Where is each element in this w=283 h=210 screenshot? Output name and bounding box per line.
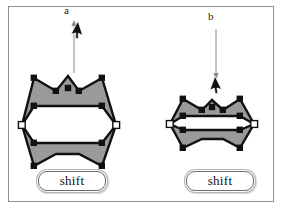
shift-key-button-b[interactable]: shift [186,171,254,191]
shift-key-button-a[interactable]: shift [38,171,106,191]
panel-a-group [18,20,119,169]
figure-root: a b shift shift [0,0,283,210]
panel-label-a: a [64,5,69,16]
arrow-cursor-down-right[interactable] [209,76,225,95]
panel-b-group [166,29,257,151]
shape-a-inner-band [22,106,116,143]
drag-arrow-b [213,29,218,80]
panel-label-b: b [208,11,214,22]
